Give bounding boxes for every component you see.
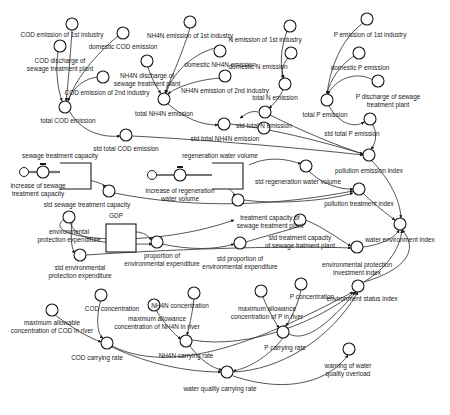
node-nTotB	[259, 106, 271, 118]
node-warning-of-water-quality-overload	[343, 343, 355, 355]
label-n-emission-of-1st-industry: N emission of 1st industry	[228, 36, 302, 44]
node-std-total-p-emission	[364, 113, 376, 125]
stock-regeneration-water-volume	[212, 163, 243, 189]
label-treatment-capacity-of-sewage-treatment-plant: treatment capacity ofsewage treatment pl…	[237, 214, 304, 230]
node-environment-status-index	[352, 280, 364, 292]
node-treatment-capacity-of-sewage-treatment-plant	[232, 194, 244, 206]
label-water-environment-index: water environment index	[364, 236, 435, 243]
label-pollution-treatment-index: pollution treatment index	[324, 200, 394, 208]
label-environment-status-index: environment status index	[326, 295, 398, 302]
label-p-concentration: P concentration	[290, 293, 335, 300]
node-domestic-n-emission	[285, 47, 297, 59]
label-total-nh4n-emission: total NH4N emission	[135, 110, 194, 117]
label-environmental-protection-expenditure: environmentalprotection expenditure	[37, 228, 101, 244]
label-total-cod-emission: total COD emission	[40, 117, 95, 124]
label-sewage-treatment-capacity: sewage treatment capacity	[22, 152, 99, 160]
label-nh4n-emission-of-1st-industry: NH4N emission of 1st industry	[147, 32, 234, 40]
node-water-environment-index	[394, 218, 406, 230]
label-pollution-emission-index: pollution emission index	[335, 167, 404, 175]
valve-icon	[174, 169, 186, 181]
variable-labels: COD emission of 1st industrydomestic COD…	[10, 31, 435, 393]
node-std-environmental-protection-expenditure	[74, 249, 86, 261]
flow-increase-sewage-capacity	[20, 163, 61, 178]
label-std-total-p-emission: std total P emission	[324, 130, 380, 137]
label-std-total-nh4n-emission: std total NH4N emission	[191, 135, 260, 142]
node-cod-carrying-rate	[101, 337, 113, 349]
node-total-nh4n-emission	[158, 93, 170, 105]
node-pConcS	[295, 278, 307, 290]
label-regeneration-water-volume: regeneration water volume	[182, 152, 258, 160]
label-warning-of-water-quality-overload: warning of waterquality overload	[324, 362, 373, 378]
label-std-total-cod-emission: std total COD emission	[93, 145, 159, 152]
label-std-total-n-emission: std total N emission	[236, 122, 292, 129]
label-nh4n-carrying-rate: NH4N carrying rate	[159, 352, 214, 360]
node-maximum-allowable-concentration-of-cod-in-river	[46, 304, 58, 316]
node-p-discharge-of-sewage-treatment-plant	[372, 75, 384, 87]
label-domestic-n-emission: domestic N emission	[229, 63, 288, 70]
node-pollution-emission-index	[363, 149, 375, 161]
label-cod-discharge-of-sewage-treatment-plant: COD discharge ofsewage treatment plant	[27, 57, 94, 73]
node-proportion-of-environmental-expenditure	[151, 236, 163, 248]
node-std-regeneration-water-volume	[300, 160, 312, 172]
label-cod-concentration: COD concentration	[85, 305, 140, 312]
label-domestic-cod-emission: domestic COD emission	[89, 43, 158, 50]
stock-gdp	[106, 224, 136, 252]
label-cod-carrying-rate: COD carrying rate	[71, 354, 123, 362]
node-total-p-emission	[321, 94, 333, 106]
label-proportion-of-environmental-expenditure: proportion ofenvironmental expenditure	[124, 252, 200, 268]
label-std-proportion-of-environmental-expenditure: std proportion ofenvironmental expenditu…	[202, 255, 278, 271]
label-p-emission-of-1st-industry: P emission of 1st industry	[334, 31, 408, 39]
label-p-carrying-rate: P carrying rate	[264, 344, 306, 352]
node-std-proportion-of-environmental-expenditure	[234, 237, 246, 249]
node-cod-emission-of-2nd-industry	[97, 71, 109, 83]
label-increase-of-sewage-treatment-capacity: increase of sewagetreatment capacity	[10, 182, 66, 198]
label-std-environmental-protection-expenditure: std environmentalprotection expenditure	[48, 264, 112, 280]
label-std-regeneration-water-volume: std regeneration water volume	[255, 178, 341, 186]
label-std-sewage-treatment-capacity: std sewage treatment capacity	[44, 201, 131, 209]
label-std-treatment-capacity-of-sewage-tratment-plant: std treatment capacityof sewage tratment…	[265, 234, 335, 250]
node-total-n-emission	[279, 78, 291, 90]
valve-icon	[37, 166, 49, 178]
source-cloud-icon	[148, 171, 157, 180]
node-water-quality-carrying-rate	[221, 366, 233, 378]
node-std-total-cod-emission	[120, 129, 132, 141]
node-environmental-protection-investment-index	[351, 241, 363, 253]
node-domestic-p-emission	[353, 47, 365, 59]
node-nh4n-discharge-of-sewage-treatment-plant	[141, 55, 153, 67]
node-std-total-nh4n-emission	[218, 118, 230, 130]
label-nh4n-discharge-of-sewage-treatment-plant: NH4N discharge ofsewage treatment plant	[114, 72, 181, 88]
node-environmental-protection-expenditure	[63, 211, 75, 223]
source-cloud-icon	[20, 168, 29, 177]
label-nh4n-concentration: NH4N concentration	[151, 302, 209, 309]
flow-increase-regeneration-volume	[148, 166, 213, 181]
node-cod-discharge-of-sewage-treatment-plant	[54, 40, 66, 52]
label-total-n-emission: total N emission	[252, 94, 298, 101]
label-cod-emission-of-2nd-industry: COD emission of 2nd industry	[65, 89, 151, 97]
node-codConcS	[95, 289, 107, 301]
node-domestic-cod-emission	[117, 27, 129, 39]
label-maximum-allowable-concentration-of-cod-in-river: maximum allowableconcentration of COD in…	[11, 319, 94, 334]
node-nhConcS	[188, 287, 200, 299]
node-pollution-treatment-index	[353, 183, 365, 195]
label-p-discharge-of-sewage-treatment-plant: P discharge of sewagetreatment plant	[356, 93, 421, 109]
node-p-emission-of-1st-industry	[361, 13, 373, 25]
node-nh4n-carrying-rate	[180, 335, 192, 347]
label-maximum-allowance-concentration-of-p-in-river: maximum allowanceconcentration of P in r…	[231, 305, 304, 320]
node-nh4n-emission-of-1st-industry	[184, 16, 196, 28]
node-total-cod-emission	[59, 101, 71, 113]
label-water-quality-carrying-rate: water quality carrying rate	[182, 385, 257, 393]
label-total-p-emission: total P emission	[303, 111, 348, 118]
label-cod-emission-of-1st-industry: COD emission of 1st industry	[21, 31, 105, 39]
system-dynamics-diagram: COD emission of 1st industrydomestic COD…	[0, 0, 450, 415]
node-cod-emission-of-1st-industry	[66, 18, 78, 30]
node-std-sewage-treatment-capacity	[103, 185, 115, 197]
label-maximum-allowance-concentration-of-nh4n-in-river: maximum allowanceconcentration of NH4N i…	[114, 315, 200, 330]
label-domestic-p-emission: domestic P emission	[331, 64, 390, 71]
node-p-carrying-rate	[277, 326, 289, 338]
node-n-emission-of-1st-industry	[284, 20, 296, 32]
node-domestic-nh4n-emission	[214, 45, 226, 57]
node-pMaxS	[255, 285, 267, 297]
node-nh4n-emission-of-2nd-industry	[219, 70, 231, 82]
label-gdp: GDP	[109, 212, 123, 219]
